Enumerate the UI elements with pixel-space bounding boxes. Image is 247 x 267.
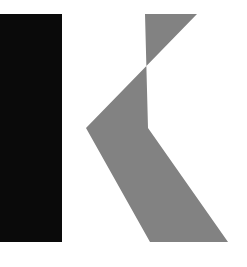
- logo-chevron-arm: [86, 14, 228, 242]
- logo-canvas: K: [0, 0, 247, 267]
- logo-stem-bar: [0, 14, 62, 242]
- logo-mark: [0, 0, 247, 267]
